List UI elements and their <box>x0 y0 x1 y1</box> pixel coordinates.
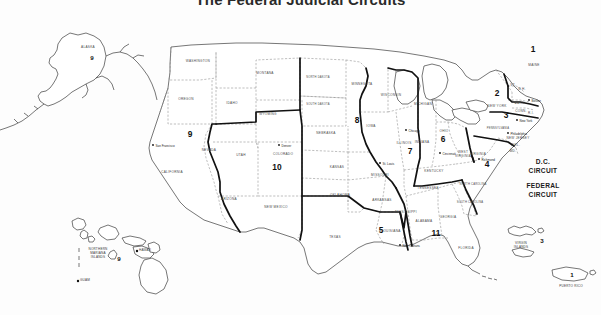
state-label-south-carolina: SOUTH CAROLINA <box>457 200 484 204</box>
state-label-wyoming: WYOMING <box>259 112 277 116</box>
state-label-idaho: IDAHO <box>226 101 238 105</box>
city-dot-san-francisco <box>152 144 154 146</box>
state-label-illinois: ILLINOIS <box>396 141 411 145</box>
svg-text:D.C.: D.C. <box>536 158 550 165</box>
circuit-number-10: 10 <box>272 162 282 172</box>
circuit-number-4: 4 <box>485 159 490 169</box>
territory-label-virgin-islands: VIRGINISLANDS <box>514 241 529 249</box>
state-label-oklahoma: OKLAHOMA <box>330 193 351 197</box>
state-label-tennessee: TENNESSEE <box>417 186 439 190</box>
state-label-ohio: OHIO <box>439 129 448 133</box>
circuit-number-2: 2 <box>495 88 500 98</box>
svg-text:FEDERAL: FEDERAL <box>526 182 559 189</box>
city-dot-st-louis <box>379 162 381 164</box>
state-label-md: MD. <box>510 149 517 153</box>
state-label-iowa: IOWA <box>366 124 376 128</box>
state-label-montana: MONTANA <box>256 71 274 75</box>
caribbean-region <box>508 226 596 281</box>
state-label-georgia: GEORGIA <box>440 215 457 219</box>
circuit-number-9: 9 <box>188 129 193 139</box>
city-dot-new-york <box>516 119 518 121</box>
circuit-number-1-puerto-rico: 1 <box>570 271 574 278</box>
alaska-region <box>0 33 157 130</box>
city-dot-richmond <box>478 158 480 160</box>
state-label-virginia: VIRGINIA <box>470 152 487 156</box>
city-dot-philadelphia <box>507 132 509 134</box>
state-label-alabama: ALABAMA <box>416 219 433 223</box>
state-label-arizona: ARIZONA <box>221 197 238 201</box>
state-label-wisconsin: WISCONSIN <box>381 93 402 97</box>
state-label-minnesota: MINNESOTA <box>352 82 374 86</box>
gulf-coast-detail <box>468 266 497 280</box>
city-label-new-york: New York <box>520 119 533 123</box>
state-label-north-carolina: NORTH CAROLINA <box>460 182 487 186</box>
state-label-oregon: OREGON <box>178 97 194 101</box>
state-label-r-i: R.I. <box>528 111 534 115</box>
state-label-conn: CONN. <box>515 109 527 113</box>
circuit-number-5: 5 <box>379 225 384 235</box>
word-circuit-labels-group: D.C.CIRCUITFEDERALCIRCUIT <box>526 158 559 198</box>
territory-label-northern-mariana-islands: NORTHERNMARIANAISLANDS <box>88 247 107 259</box>
circuit-number-1: 1 <box>531 44 536 54</box>
territory-label-puerto-rico: PUERTO RICO <box>559 284 583 288</box>
circuit-number-9-hawaii: 9 <box>117 255 121 262</box>
state-label-kentucky: KENTUCKY <box>424 169 444 173</box>
page-title: The Federal Judicial Circuits <box>0 0 601 11</box>
svg-text:CIRCUIT: CIRCUIT <box>529 167 558 174</box>
city-label-chicago: Chicago <box>409 129 420 133</box>
city-label-st-louis: St. Louis <box>383 162 395 166</box>
state-label-mississippi: MISSISSIPPI <box>395 210 417 214</box>
svg-text:PUERTO RICO: PUERTO RICO <box>559 284 583 288</box>
circuit-label-federal: FEDERALCIRCUIT <box>526 182 559 198</box>
city-dot-chicago <box>405 129 407 131</box>
state-label-maine: MAINE <box>528 63 539 67</box>
circuit-number-11: 11 <box>432 228 441 238</box>
circuit-number-6: 6 <box>441 134 446 144</box>
state-label-new-mexico: NEW MEXICO <box>264 205 288 209</box>
city-label-cincinnati: Cincinnati <box>443 152 457 156</box>
state-label-del: DEL. <box>512 143 520 147</box>
circuit-number-3-virgin-islands: 3 <box>540 237 544 244</box>
state-label-missouri: MISSOURI <box>371 173 389 177</box>
city-label-boston: Boston <box>532 99 542 103</box>
state-label-nebraska: NEBRASKA <box>316 131 336 135</box>
state-label-kansas: KANSAS <box>330 165 344 169</box>
state-label-louisiana: LOUISIANA <box>381 229 401 233</box>
federal-judicial-circuits-map: The Federal Judicial Circuits <box>0 0 601 315</box>
state-label-utah: UTAH <box>236 153 246 157</box>
state-label-colorado: COLORADO <box>273 152 293 156</box>
circuit-number-8: 8 <box>355 115 360 125</box>
circuit-number-7: 7 <box>408 146 413 156</box>
state-label-texas: TEXAS <box>329 235 341 239</box>
state-label-new-york: NEW YORK <box>487 104 507 108</box>
circuit-label-dc: D.C.CIRCUIT <box>529 158 558 174</box>
state-label-indiana: INDIANA <box>415 140 430 144</box>
state-label-arkansas: ARKANSAS <box>372 198 391 202</box>
svg-text:GUAM: GUAM <box>80 278 90 282</box>
city-label-philadelphia: Philadelphia <box>511 132 528 136</box>
city-label-new-orleans: New Orleans <box>403 244 421 248</box>
territory-label-hawaii: HAWAII <box>139 248 151 252</box>
state-label-new-jersey: NEW JERSEY <box>506 136 530 140</box>
state-label-california: CALIFORNIA <box>161 170 183 174</box>
city-dot-new-orleans <box>399 244 401 246</box>
city-dot-boston <box>528 99 530 101</box>
svg-text:HAWAII: HAWAII <box>139 248 151 252</box>
state-label-alaska: ALASKA <box>81 45 96 49</box>
state-label-washington: WASHINGTON <box>186 59 211 63</box>
city-label-denver: Denver <box>282 144 292 148</box>
state-label-vt: VT. <box>510 83 515 87</box>
state-label-nevada: NEVADA <box>202 148 217 152</box>
svg-text:ISLANDS: ISLANDS <box>514 245 529 249</box>
state-label-virginia: VIRGINIA <box>455 154 472 158</box>
circuit-number-9-alaska: 9 <box>90 54 94 61</box>
city-dot-cincinnati <box>439 152 441 154</box>
svg-text:CIRCUIT: CIRCUIT <box>529 191 558 198</box>
svg-text:ISLANDS: ISLANDS <box>91 255 106 259</box>
state-label-south-dakota: SOUTH DAKOTA <box>306 102 329 106</box>
state-label-north-dakota: NORTH DAKOTA <box>306 75 330 79</box>
state-label-pennsylvania: PENNSYLVANIA <box>487 126 510 130</box>
state-label-florida: FLORIDA <box>458 246 474 250</box>
state-label-michigan: MICHIGAN <box>414 102 432 106</box>
state-label-mass: MASS. <box>514 101 525 105</box>
